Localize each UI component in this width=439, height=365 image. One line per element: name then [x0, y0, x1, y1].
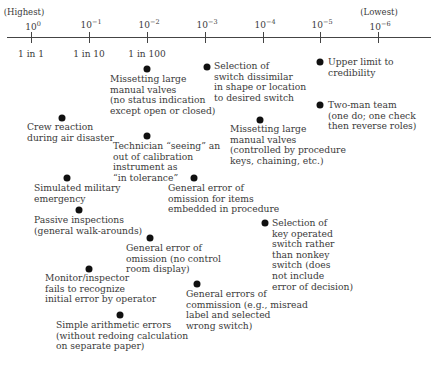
lowest-label: (Lowest) — [360, 7, 397, 17]
axis-tick — [147, 32, 148, 43]
data-point-label: Technician “seeing” an out of calibratio… — [113, 141, 220, 183]
exponent-power: −6 — [381, 20, 391, 28]
exponent-power: −1 — [92, 18, 102, 26]
exponent-power: −3 — [208, 18, 218, 26]
data-point-label: Crew reaction during air disaster — [27, 122, 114, 143]
data-point-label: Monitor/inspector fails to recognize ini… — [45, 273, 156, 305]
data-point-dot — [204, 64, 211, 71]
axis-ratio-label: 1 in 10 — [73, 49, 105, 59]
axis-exponent-label: 10−4 — [254, 18, 275, 30]
data-point-label: Simple arithmetic errors (without redoin… — [56, 320, 188, 352]
axis-ratio-label: 1 in 100 — [128, 49, 165, 59]
exponent-power: −2 — [150, 18, 160, 26]
data-point-dot — [144, 66, 151, 73]
axis-tick — [89, 32, 90, 43]
exponent-base: 10 — [196, 20, 207, 30]
axis-tick — [378, 32, 379, 43]
exponent-base: 10 — [138, 20, 149, 30]
data-point-dot — [76, 207, 83, 214]
data-point-label: Upper limit to credibility — [328, 57, 394, 78]
axis-exponent-label: 10−6 — [369, 20, 390, 32]
exponent-base: 10 — [254, 20, 265, 30]
data-point-label: General error of omission for items embe… — [168, 183, 279, 215]
data-point-label: General error of omission (no control ro… — [126, 243, 221, 275]
axis-tick — [263, 32, 264, 43]
axis-tick — [320, 32, 321, 43]
data-point-dot — [117, 312, 124, 319]
data-point-label: Selection of key operated switch rather … — [272, 218, 353, 292]
data-point-dot — [147, 235, 154, 242]
data-point-label: Missetting large manual valves (controll… — [230, 124, 346, 166]
data-point-label: Missetting large manual valves (no statu… — [110, 74, 215, 116]
axis-exponent-label: 10−2 — [138, 18, 159, 30]
axis-exponent-label: 100 — [25, 20, 41, 32]
exponent-base: 10 — [25, 22, 36, 32]
data-point-dot — [191, 175, 198, 182]
probability-axis — [7, 37, 431, 38]
exponent-power: −5 — [323, 18, 333, 26]
axis-exponent-label: 10−5 — [311, 18, 332, 30]
data-point-label: Passive inspections (general walk-around… — [34, 215, 142, 236]
data-point-label: Selection of switch dissimilar in shape … — [214, 61, 306, 103]
exponent-power: 0 — [37, 20, 41, 28]
exponent-base: 10 — [80, 20, 91, 30]
data-point-dot — [317, 102, 324, 109]
axis-exponent-label: 10−3 — [196, 18, 217, 30]
axis-ratio-label: 1 in 1 — [18, 49, 44, 59]
data-point-label: Simulated military emergency — [34, 183, 121, 204]
axis-tick — [31, 32, 32, 43]
data-point-dot — [64, 175, 71, 182]
data-point-dot — [144, 133, 151, 140]
exponent-power: −4 — [266, 18, 276, 26]
axis-tick — [205, 32, 206, 43]
data-point-label: General errors of commission (e.g., misr… — [186, 289, 308, 331]
highest-label: (Highest) — [4, 7, 45, 17]
data-point-dot — [194, 281, 201, 288]
exponent-base: 10 — [369, 22, 380, 32]
data-point-dot — [317, 59, 324, 66]
data-point-dot — [262, 220, 269, 227]
exponent-base: 10 — [311, 20, 322, 30]
axis-exponent-label: 10−1 — [80, 18, 101, 30]
